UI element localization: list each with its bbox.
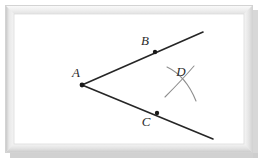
figure-root: A B C D <box>0 0 266 161</box>
point-b-dot <box>153 50 157 54</box>
point-a-label: A <box>71 65 80 80</box>
geometry-figure-canvas: A B C D <box>0 0 266 161</box>
point-b-label: B <box>141 33 149 48</box>
point-d-label: D <box>175 64 186 79</box>
point-a-dot <box>80 83 85 88</box>
point-c-label: C <box>142 114 151 129</box>
drawing-surface <box>15 15 243 143</box>
point-c-dot <box>155 111 159 115</box>
